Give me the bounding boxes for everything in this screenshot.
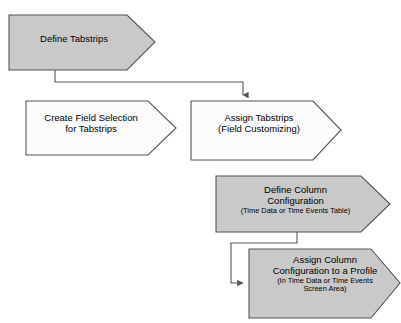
connector-define-tabstrips-to-assign-tabstrips bbox=[55, 70, 243, 95]
flowchart-canvas bbox=[0, 0, 401, 323]
flowchart-diagram: Define Tabstrips Create Field Selection … bbox=[0, 0, 401, 323]
node-define-column-configuration[interactable] bbox=[216, 176, 390, 232]
node-assign-tabstrips[interactable] bbox=[191, 101, 341, 160]
node-create-field-selection[interactable] bbox=[26, 101, 176, 155]
node-assign-column-configuration[interactable] bbox=[249, 249, 400, 318]
node-define-tabstrips[interactable] bbox=[9, 15, 155, 70]
